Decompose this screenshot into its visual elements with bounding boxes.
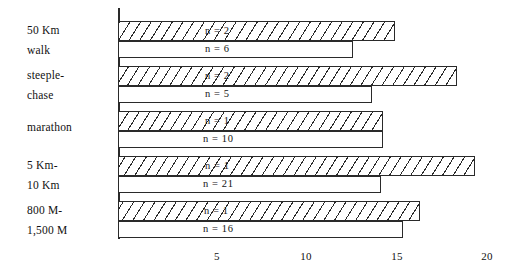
x-tick-label-5: 5 [214, 250, 220, 262]
category-label-50km-walk: 50 Km walk [27, 23, 60, 57]
x-tick-label-20: 20 [481, 250, 493, 262]
x-tick-label-10: 10 [300, 250, 312, 262]
bar-800m-1500m-open [118, 221, 403, 238]
category-label-marathon: marathon [27, 120, 72, 134]
category-label-steeplechase: steeple- chase [27, 68, 64, 102]
category-label-line: 5 Km- [27, 158, 60, 172]
category-label-line: 10 Km [27, 178, 60, 192]
bar-50km-walk-hatched [118, 21, 395, 41]
bar-800m-1500m-hatched [118, 201, 420, 221]
x-tick-label-15: 15 [391, 250, 403, 262]
category-label-line: 800 M- [27, 203, 67, 217]
bar-marathon-hatched [118, 111, 383, 131]
bar-steeplechase-open [118, 86, 372, 103]
bar-50km-walk-open [118, 41, 353, 58]
category-label-line: marathon [27, 120, 72, 134]
category-label-5km-10km: 5 Km- 10 Km [27, 158, 60, 192]
bar-steeplechase-hatched [118, 66, 457, 86]
bar-5km-10km-hatched [118, 156, 475, 176]
category-label-line: 1,500 M [27, 223, 67, 237]
bar-5km-10km-open [118, 176, 381, 193]
bar-marathon-open [118, 131, 383, 148]
category-label-line: chase [27, 88, 64, 102]
category-label-800m-1500m: 800 M- 1,500 M [27, 203, 67, 237]
category-label-line: steeple- [27, 68, 64, 82]
bar-chart: 50 Km walk steeple- chase marathon 5 Km-… [0, 0, 512, 278]
category-label-line: walk [27, 43, 60, 57]
category-label-line: 50 Km [27, 23, 60, 37]
